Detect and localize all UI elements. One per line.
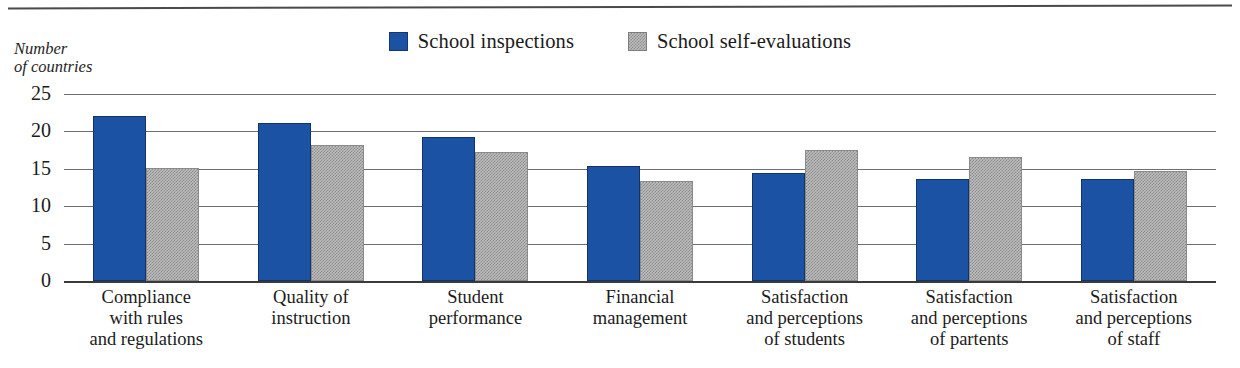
- y-tick-0: 0: [41, 269, 51, 292]
- legend-swatch-gray-icon: [628, 32, 647, 51]
- y-tick-15: 15: [31, 157, 51, 180]
- bar-self-evaluations: [475, 152, 528, 281]
- x-axis-label: Studentperformance: [393, 287, 558, 350]
- y-tick-5: 5: [41, 231, 51, 254]
- bar-self-evaluations: [1134, 171, 1187, 281]
- bar-pair: [887, 94, 1052, 281]
- x-axis-label-line: Satisfaction: [1055, 287, 1212, 308]
- bar-self-evaluations: [805, 150, 858, 281]
- x-axis-label-line: management: [562, 308, 719, 329]
- x-axis-label-line: Student: [397, 287, 554, 308]
- bar-pair: [64, 94, 229, 281]
- bar-group: [558, 94, 723, 281]
- bar-pair: [722, 94, 887, 281]
- bar-pair: [1051, 94, 1216, 281]
- x-axis-label: Satisfactionand perceptionsof students: [722, 287, 887, 350]
- x-axis-label-line: Satisfaction: [891, 287, 1048, 308]
- x-axis-label-line: performance: [397, 308, 554, 329]
- x-axis-label-line: and perceptions: [726, 308, 883, 329]
- x-axis-label: Satisfactionand perceptionsof staff: [1051, 287, 1216, 350]
- x-axis-label-line: and perceptions: [1055, 308, 1212, 329]
- x-axis-label-line: of staff: [1055, 329, 1212, 350]
- bar-inspections: [1081, 179, 1134, 281]
- bar-inspections: [258, 123, 311, 281]
- x-axis-label-line: of partents: [891, 329, 1048, 350]
- chart-legend: School inspections School self-evaluatio…: [0, 30, 1240, 53]
- bar-group: [722, 94, 887, 281]
- chart-plot-area: 25 20 15 10 5 0: [64, 94, 1216, 281]
- y-tick-10: 10: [31, 194, 51, 217]
- y-tick-25: 25: [31, 82, 51, 105]
- x-axis-label: Financialmanagement: [558, 287, 723, 350]
- gridline-0-baseline: 0: [64, 281, 1216, 283]
- bar-inspections: [587, 166, 640, 281]
- bar-self-evaluations: [146, 168, 199, 281]
- bar-self-evaluations: [969, 157, 1022, 281]
- bar-pair: [229, 94, 394, 281]
- y-axis-caption-line2: of countries: [14, 58, 92, 76]
- legend-label-school-inspections: School inspections: [418, 30, 574, 53]
- bar-pair: [393, 94, 558, 281]
- bar-group: [393, 94, 558, 281]
- x-axis-label-line: Financial: [562, 287, 719, 308]
- bar-inspections: [916, 179, 969, 281]
- x-axis-label-line: Quality of: [233, 287, 390, 308]
- x-axis-label: Satisfactionand perceptionsof partents: [887, 287, 1052, 350]
- y-tick-20: 20: [31, 119, 51, 142]
- bar-inspections: [422, 137, 475, 281]
- x-axis-labels: Compliancewith rulesand regulationsQuali…: [64, 287, 1216, 350]
- x-axis-label-line: Compliance: [68, 287, 225, 308]
- legend-label-school-self-evaluations: School self-evaluations: [657, 30, 851, 53]
- x-axis-label-line: Satisfaction: [726, 287, 883, 308]
- x-axis-label-line: and perceptions: [891, 308, 1048, 329]
- legend-swatch-blue-icon: [389, 32, 408, 51]
- page-top-rule: [8, 5, 1232, 10]
- bar-inspections: [752, 173, 805, 281]
- bar-self-evaluations: [311, 145, 364, 281]
- bar-group: [64, 94, 229, 281]
- bar-pair: [558, 94, 723, 281]
- x-axis-label-line: with rules: [68, 308, 225, 329]
- bar-self-evaluations: [640, 181, 693, 281]
- x-axis-label-line: and regulations: [68, 329, 225, 350]
- x-axis-label: Quality ofinstruction: [229, 287, 394, 350]
- bar-group: [887, 94, 1052, 281]
- legend-item-school-inspections: School inspections: [389, 30, 574, 53]
- legend-item-school-self-evaluations: School self-evaluations: [628, 30, 851, 53]
- bar-group: [1051, 94, 1216, 281]
- bar-group: [229, 94, 394, 281]
- x-axis-label: Compliancewith rulesand regulations: [64, 287, 229, 350]
- bar-inspections: [93, 116, 146, 281]
- bar-groups: [64, 94, 1216, 281]
- x-axis-label-line: instruction: [233, 308, 390, 329]
- x-axis-label-line: of students: [726, 329, 883, 350]
